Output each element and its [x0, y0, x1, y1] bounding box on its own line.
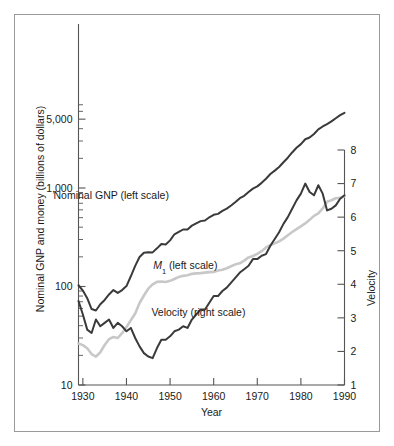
right-axis-tick-label: 7 [351, 177, 357, 189]
y-axis-label: Nominal GNP and money (billions of dolla… [34, 106, 46, 312]
x-axis-tick-label: 1990 [333, 390, 357, 402]
figure-container: 101001,0005,0001930194019501960197019801… [0, 0, 394, 446]
x-axis-tick-label: 1930 [71, 390, 95, 402]
right-axis-tick-label: 5 [351, 245, 357, 257]
right-axis-tick-label: 4 [351, 278, 357, 290]
x-axis-tick-label: 1940 [115, 390, 139, 402]
x-axis-label: Year [201, 406, 223, 418]
x-axis-tick-label: 1950 [158, 390, 182, 402]
series-line-1 [79, 196, 345, 356]
x-axis-tick-label: 1980 [289, 390, 313, 402]
right-axis-tick-label: 3 [351, 312, 357, 324]
right-axis-tick-label: 6 [351, 211, 357, 223]
right-axis-tick-label: 2 [351, 345, 357, 357]
x-axis-tick-label: 1960 [202, 390, 226, 402]
chart-canvas: 101001,0005,0001930194019501960197019801… [0, 0, 394, 446]
x-axis-tick-label: 1970 [246, 390, 270, 402]
velocity-label: Velocity (right scale) [151, 306, 245, 318]
gnp-label: Nominal GNP (left scale) [54, 189, 169, 201]
series-line-0 [79, 113, 345, 311]
right-axis-tick-label: 1 [351, 379, 357, 391]
right-axis-tick-label: 8 [351, 144, 357, 156]
y2-axis-label: Velocity [365, 269, 377, 306]
left-axis-tick-label: 5,000 [46, 113, 72, 125]
left-axis-tick-label: 100 [55, 280, 73, 292]
